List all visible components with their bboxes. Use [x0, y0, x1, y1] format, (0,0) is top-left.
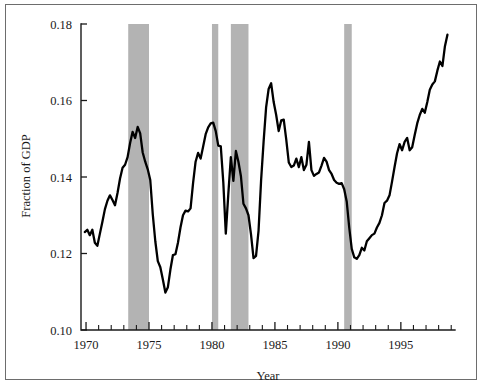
- recession-1980: [212, 24, 218, 330]
- y-axis-title: Fraction of GDP: [19, 134, 33, 217]
- recession-1973-1975: [128, 24, 149, 330]
- y-tick-label: 0.10: [50, 324, 72, 338]
- x-tick-label: 1985: [262, 338, 287, 352]
- x-tick-label: 1975: [137, 338, 162, 352]
- x-tick-label: 1990: [325, 338, 350, 352]
- y-tick-label: 0.12: [50, 247, 72, 261]
- y-tick-label: 0.18: [50, 18, 72, 32]
- y-tick-label: 0.14: [50, 171, 73, 185]
- recession-1990-1991: [344, 24, 352, 330]
- chart-plot-area: 0.100.120.140.160.1819701975198019851990…: [0, 0, 483, 391]
- chart-figure: 0.100.120.140.160.1819701975198019851990…: [0, 0, 483, 391]
- x-tick-label: 1980: [199, 338, 224, 352]
- y-tick-label: 0.16: [50, 94, 72, 108]
- x-tick-label: 1970: [74, 338, 99, 352]
- x-tick-label: 1995: [388, 338, 413, 352]
- x-axis-title: Year: [256, 369, 280, 383]
